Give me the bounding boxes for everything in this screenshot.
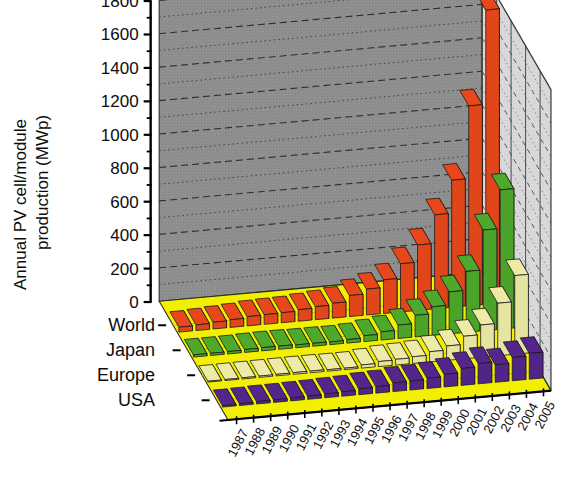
y-axis-tick-label: 1200 <box>101 92 139 111</box>
bar-front-face <box>213 321 227 329</box>
bar-front-face <box>359 388 373 395</box>
bar-front-face <box>427 377 441 388</box>
bar-front-face <box>366 288 380 315</box>
plot-area <box>159 0 551 420</box>
bar-front-face <box>342 391 356 397</box>
bar-front-face <box>444 373 458 387</box>
bar-front-face <box>361 364 375 368</box>
bar-front-face <box>461 367 475 385</box>
bar-front-face <box>325 393 339 398</box>
bar-front-face <box>262 346 276 350</box>
bar-front-face <box>347 338 361 343</box>
bar-front-face <box>376 385 390 393</box>
y-axis-title-line1: Annual PV cell/module <box>11 119 30 290</box>
bar-front-face <box>478 362 492 383</box>
x-axis-year-label: 2005 <box>531 399 558 432</box>
bar-front-face <box>383 279 397 314</box>
bar-front-face <box>279 345 293 349</box>
bar-front-face <box>298 308 312 321</box>
y-axis-tick-label: 600 <box>110 193 138 212</box>
bar-front-face <box>395 358 409 365</box>
bar-front-face <box>196 324 210 331</box>
y-axis-tick-label: 0 <box>129 293 138 312</box>
bar-front-face <box>247 315 261 325</box>
bar-front-face <box>415 314 429 337</box>
y-axis-tick-label: 200 <box>110 260 138 279</box>
bar-front-face <box>398 324 412 339</box>
y-axis-tick-label: 400 <box>110 226 138 245</box>
y-axis-tick-label: 1400 <box>101 59 139 78</box>
series-label-japan: Japan <box>106 340 155 360</box>
y-axis-tick-label: 1000 <box>101 126 139 145</box>
chart-figure: Annual PV cell/module production (MWp) 0… <box>0 0 579 490</box>
bar-front-face <box>381 331 395 340</box>
bar-front-face <box>512 356 526 380</box>
back-wall <box>159 0 482 301</box>
y-axis-tick-label: 800 <box>110 159 138 178</box>
bar-front-face <box>393 382 407 392</box>
bar-front-face <box>315 305 329 319</box>
series-label-world: World <box>108 315 155 335</box>
bar-front-face <box>332 302 346 318</box>
bar-front-face <box>308 395 322 399</box>
y-axis-title-line2: production (MWp) <box>33 115 52 250</box>
bar-front-face <box>529 352 543 379</box>
bar-front-face <box>179 326 193 332</box>
y-axis-title: Annual PV cell/module production (MWp) <box>11 115 52 290</box>
bar-front-face <box>378 360 392 366</box>
y-axis: 020040060080010001200140016001800 <box>101 0 152 312</box>
series-label-usa: USA <box>118 390 155 410</box>
bar-front-face <box>230 319 244 328</box>
bar-front-face <box>281 312 295 323</box>
bar-front-face <box>364 335 378 342</box>
bar-front-face <box>410 380 424 390</box>
y-axis-tick-label: 1600 <box>101 25 139 44</box>
bar-front-face <box>349 294 363 316</box>
y-axis-tick-label: 1800 <box>101 0 139 11</box>
bar-front-face <box>495 364 509 383</box>
series-label-europe: Europe <box>97 365 155 385</box>
bar-front-face <box>264 313 278 324</box>
pv-production-3d-bar-chart: Annual PV cell/module production (MWp) 0… <box>0 0 579 490</box>
